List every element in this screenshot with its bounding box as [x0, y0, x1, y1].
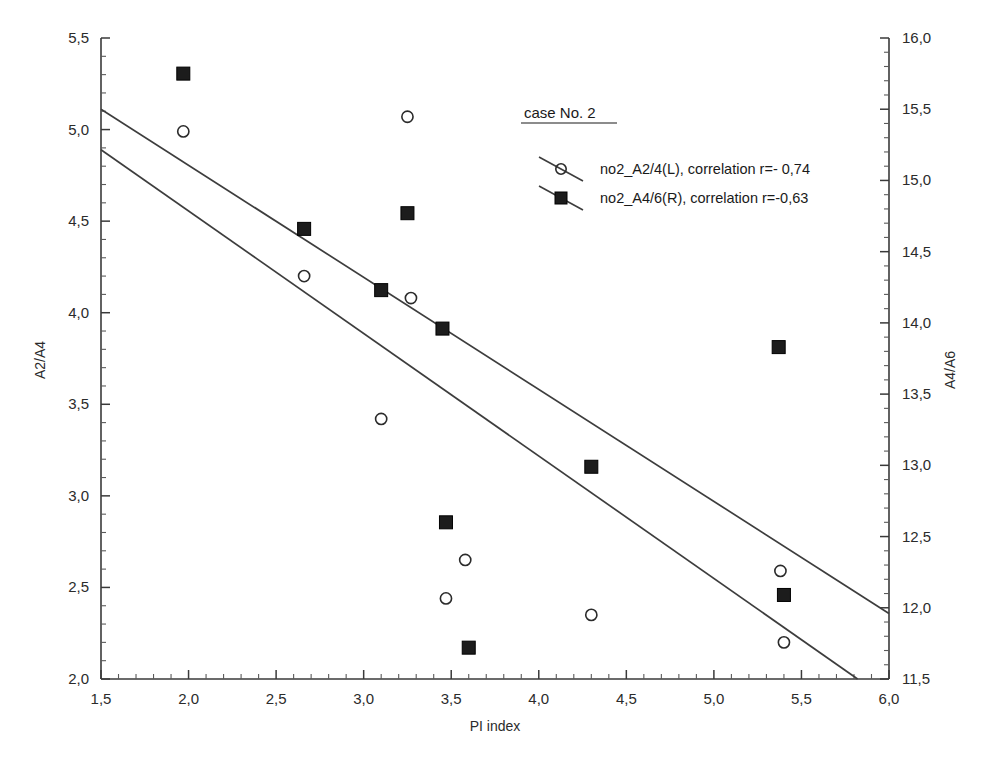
x-tick-label: 5,5 — [791, 690, 812, 707]
chart-figure: 1,52,02,53,03,54,04,55,05,56,02,02,53,03… — [0, 0, 982, 766]
legend-marker-series1 — [555, 192, 567, 204]
legend-label-series1: no2_A4/6(R), correlation r=-0,63 — [600, 190, 808, 206]
data-point-square — [772, 341, 785, 354]
x-tick-label: 2,0 — [178, 690, 199, 707]
y-axis-title-right: A4/A6 — [942, 351, 958, 389]
y-tick-label-left: 3,5 — [68, 395, 89, 412]
data-point-square — [298, 222, 311, 235]
y-tick-label-right: 13,0 — [902, 456, 931, 473]
data-point-square — [585, 460, 598, 473]
y-tick-label-right: 15,5 — [902, 100, 931, 117]
y-tick-label-right: 15,0 — [902, 171, 931, 188]
legend-marker-line-series0 — [539, 157, 583, 181]
data-point-circle — [299, 270, 310, 281]
data-point-square — [462, 641, 475, 654]
data-point-circle — [778, 637, 789, 648]
y-tick-label-right: 14,5 — [902, 243, 931, 260]
data-point-square — [439, 516, 452, 529]
y-tick-label-right: 12,0 — [902, 599, 931, 616]
y-tick-label-left: 5,5 — [68, 29, 89, 46]
x-tick-label: 4,5 — [616, 690, 637, 707]
y-tick-label-left: 2,0 — [68, 670, 89, 687]
legend-title: case No. 2 — [524, 104, 596, 121]
data-point-circle — [775, 565, 786, 576]
data-point-circle — [376, 413, 387, 424]
x-tick-label: 5,0 — [703, 690, 724, 707]
x-tick-label: 2,5 — [266, 690, 287, 707]
x-tick-label: 6,0 — [879, 690, 900, 707]
y-tick-label-left: 3,0 — [68, 487, 89, 504]
y-tick-label-left: 2,5 — [68, 578, 89, 595]
legend: case No. 2 no2_A2/4(L), correlation r=- … — [521, 104, 810, 210]
axes-group — [101, 38, 889, 679]
y-tick-label-right: 13,5 — [902, 385, 931, 402]
data-point-square — [177, 67, 190, 80]
y-tick-label-right: 12,5 — [902, 528, 931, 545]
x-tick-label: 4,0 — [528, 690, 549, 707]
data-point-circle — [405, 292, 416, 303]
y-tick-label-left: 5,0 — [68, 121, 89, 138]
y-tick-label-right: 14,0 — [902, 314, 931, 331]
tick-labels-group: 1,52,02,53,03,54,04,55,05,56,02,02,53,03… — [68, 29, 931, 707]
data-point-square — [401, 207, 414, 220]
x-tick-label: 3,0 — [353, 690, 374, 707]
data-points-group — [177, 67, 791, 654]
y-tick-label-left: 4,5 — [68, 212, 89, 229]
x-tick-label: 3,5 — [441, 690, 462, 707]
data-point-square — [375, 284, 388, 297]
data-point-circle — [460, 554, 471, 565]
y-axis-title-left: A2/A4 — [32, 341, 48, 379]
data-point-square — [436, 322, 449, 335]
y-tick-label-right: 11,5 — [902, 670, 930, 687]
data-point-circle — [178, 126, 189, 137]
legend-label-series0: no2_A2/4(L), correlation r=- 0,74 — [600, 161, 810, 177]
scatter-plot-svg: 1,52,02,53,03,54,04,55,05,56,02,02,53,03… — [0, 0, 982, 766]
trend-line-series1 — [101, 109, 889, 613]
trend-line-series0 — [101, 150, 858, 679]
data-point-circle — [586, 609, 597, 620]
data-point-circle — [402, 111, 413, 122]
x-tick-label: 1,5 — [91, 690, 112, 707]
data-point-circle — [440, 593, 451, 604]
data-point-square — [777, 588, 790, 601]
y-tick-label-right: 16,0 — [902, 29, 931, 46]
x-axis-title: PI index — [470, 718, 521, 734]
y-tick-label-left: 4,0 — [68, 304, 89, 321]
